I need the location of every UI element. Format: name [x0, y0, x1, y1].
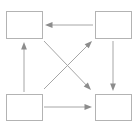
edge-top-right-to-top-left-arrowhead-icon — [45, 22, 53, 28]
node-bottom-right[interactable] — [96, 95, 132, 121]
diagram-canvas — [0, 0, 139, 127]
node-bottom-left[interactable] — [7, 95, 43, 121]
edge-top-right-to-top-left — [45, 22, 93, 28]
diagram-svg — [0, 0, 139, 127]
edge-top-right-to-bottom-right-arrowhead-icon — [110, 84, 116, 92]
edge-bottom-left-to-bottom-right — [44, 104, 92, 110]
edge-top-left-to-bottom-right-line — [44, 41, 87, 85]
node-top-left[interactable] — [7, 12, 43, 39]
edge-top-right-to-bottom-right — [110, 41, 116, 91]
edge-bottom-left-to-top-left-arrowhead-icon — [21, 42, 27, 50]
node-top-right[interactable] — [96, 12, 132, 39]
edge-bottom-left-to-top-right-line — [44, 45, 88, 89]
edge-bottom-left-to-top-left — [21, 42, 27, 92]
edge-bottom-left-to-bottom-right-arrowhead-icon — [85, 104, 93, 110]
